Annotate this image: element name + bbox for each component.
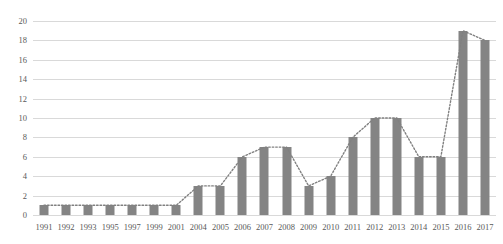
bar-slot <box>474 21 496 215</box>
y-axis-tick-label: 18 <box>5 36 27 45</box>
x-axis-tick-labels: 1991199219931995199719992001200420052006… <box>33 219 496 241</box>
bar[interactable] <box>392 118 401 215</box>
bar-slot <box>386 21 408 215</box>
bar-slot <box>408 21 430 215</box>
bar[interactable] <box>128 205 137 215</box>
bar[interactable] <box>304 186 313 215</box>
bar[interactable] <box>40 205 49 215</box>
bar-slot <box>298 21 320 215</box>
y-axis-tick-label: 8 <box>5 133 27 142</box>
bar[interactable] <box>480 40 489 215</box>
bar[interactable] <box>260 147 269 215</box>
bar-slot <box>364 21 386 215</box>
bar-slot <box>77 21 99 215</box>
bar-chart: 02468101214161820 1991199219931995199719… <box>0 0 503 244</box>
bar[interactable] <box>436 157 445 215</box>
plot-area <box>33 21 496 215</box>
bar[interactable] <box>458 31 467 215</box>
bar-slot <box>99 21 121 215</box>
bar-slot <box>452 21 474 215</box>
bar-slot <box>143 21 165 215</box>
bar[interactable] <box>216 186 225 215</box>
bar[interactable] <box>84 205 93 215</box>
y-axis-tick-label: 6 <box>5 153 27 162</box>
x-axis-tick-label: 2017 <box>470 223 500 232</box>
bar-slot <box>33 21 55 215</box>
gridline <box>33 215 496 216</box>
bar-slot <box>209 21 231 215</box>
bar-slot <box>430 21 452 215</box>
bar-slot <box>320 21 342 215</box>
y-axis-tick-label: 20 <box>5 17 27 26</box>
bar[interactable] <box>370 118 379 215</box>
y-axis-tick-label: 10 <box>5 114 27 123</box>
bar[interactable] <box>326 176 335 215</box>
bar[interactable] <box>172 205 181 215</box>
y-axis-tick-label: 4 <box>5 172 27 181</box>
bar-slot <box>165 21 187 215</box>
y-axis-tick-label: 2 <box>5 191 27 200</box>
bar[interactable] <box>282 147 291 215</box>
y-axis-tick-label: 0 <box>5 211 27 220</box>
bar-slot <box>231 21 253 215</box>
bar[interactable] <box>238 157 247 215</box>
bar-slot <box>121 21 143 215</box>
y-axis-tick-label: 16 <box>5 56 27 65</box>
bar-slot <box>253 21 275 215</box>
bar[interactable] <box>62 205 71 215</box>
bar[interactable] <box>348 137 357 215</box>
bars-layer <box>33 21 496 215</box>
bar-slot <box>342 21 364 215</box>
bar[interactable] <box>194 186 203 215</box>
bar-slot <box>55 21 77 215</box>
y-axis-tick-label: 14 <box>5 75 27 84</box>
bar[interactable] <box>150 205 159 215</box>
bar-slot <box>276 21 298 215</box>
y-axis-tick-label: 12 <box>5 94 27 103</box>
bar-slot <box>187 21 209 215</box>
bar[interactable] <box>414 157 423 215</box>
bar[interactable] <box>106 205 115 215</box>
